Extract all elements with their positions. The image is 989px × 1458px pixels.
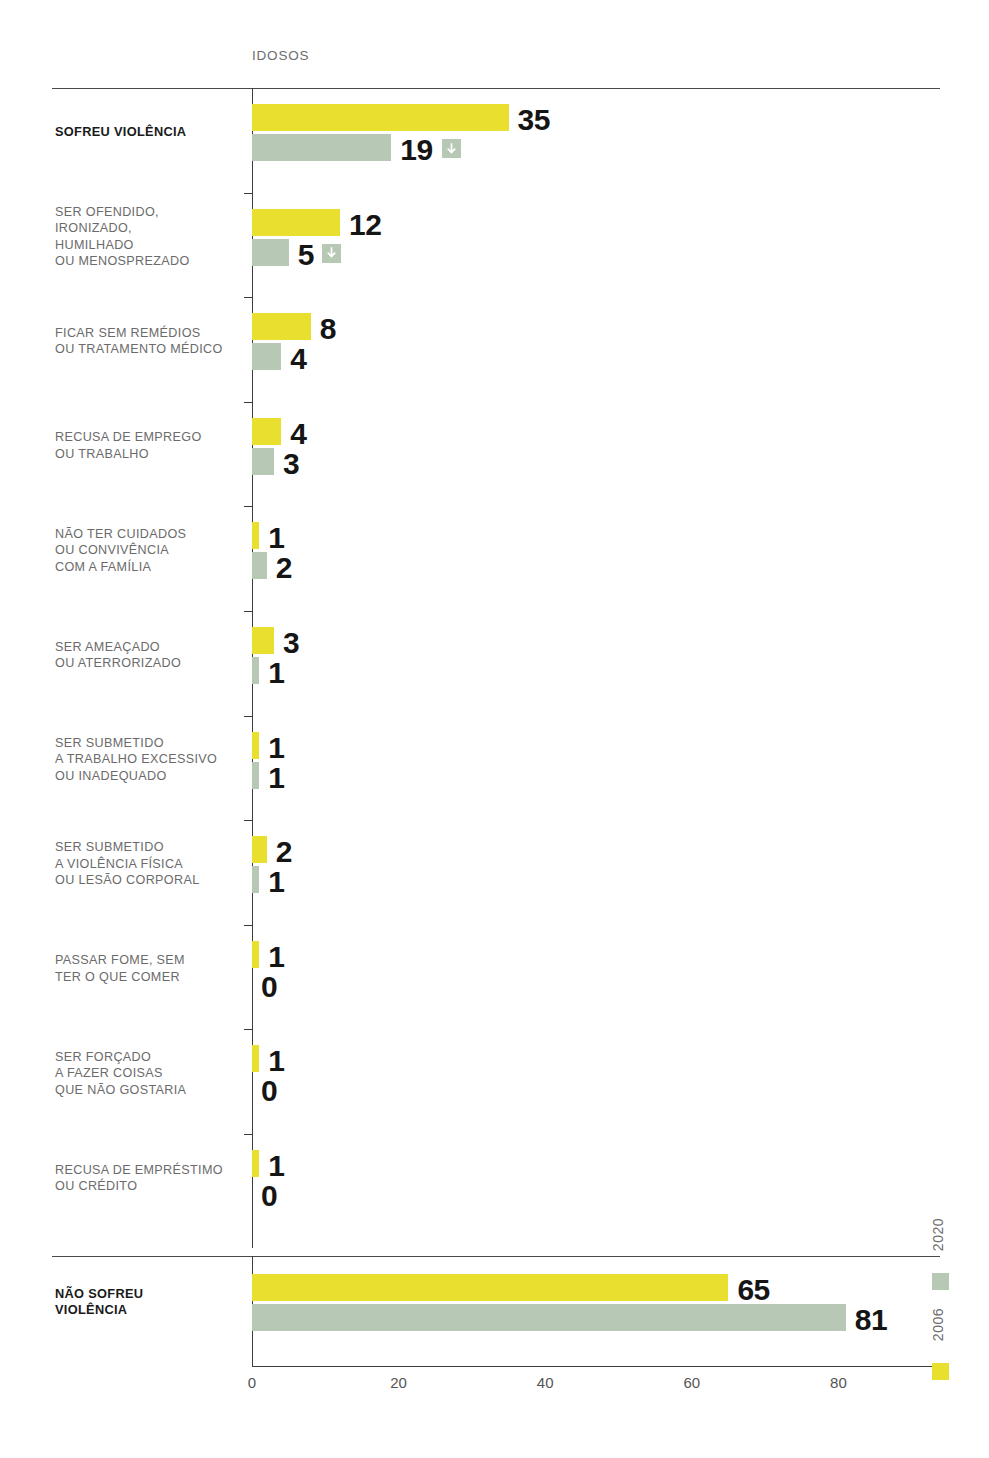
bar-2020[interactable] [252, 1304, 846, 1331]
category-label: FICAR SEM REMÉDIOSOU TRATAMENTO MÉDICO [55, 325, 240, 358]
category-label: SER OFENDIDO,IRONIZADO,HUMILHADOOU MENOS… [55, 204, 240, 270]
bar-2020[interactable] [252, 239, 289, 266]
bar-value-2020: 0 [261, 972, 277, 1002]
category-label-line: VIOLÊNCIA [55, 1302, 240, 1319]
bar-value-2020: 19 [400, 135, 432, 165]
bar-value-2020: 81 [855, 1305, 887, 1335]
bar-value-2006: 35 [518, 105, 550, 135]
bar-2020[interactable] [252, 448, 274, 475]
bar-2020[interactable] [252, 762, 259, 789]
top-divider-rule [52, 88, 940, 89]
bar-value-2006: 3 [283, 628, 299, 658]
bar-value-2020: 5 [298, 240, 314, 270]
y-axis-tick [244, 611, 253, 612]
category-label-line: OU CRÉDITO [55, 1178, 240, 1195]
category-label-line: OU TRATAMENTO MÉDICO [55, 341, 240, 358]
category-label-line: SOFREU VIOLÊNCIA [55, 124, 240, 141]
y-axis-tick [244, 297, 253, 298]
category-label-line: PASSAR FOME, SEM [55, 952, 240, 969]
category-label-line: FICAR SEM REMÉDIOS [55, 325, 240, 342]
section-divider-rule [52, 1256, 940, 1257]
category-label: SER AMEAÇADOOU ATERRORIZADO [55, 639, 240, 672]
category-label: RECUSA DE EMPRÉSTIMOOU CRÉDITO [55, 1162, 240, 1195]
bar-value-2006: 12 [349, 210, 381, 240]
chart-page: IDOSOS 020406080 SOFREU VIOLÊNCIA3519SER… [0, 0, 989, 1458]
bar-2006[interactable] [252, 1045, 259, 1072]
y-axis-tick [244, 925, 253, 926]
bar-2006[interactable] [252, 209, 340, 236]
category-label-line: SER OFENDIDO, [55, 204, 240, 221]
category-label-line: SER AMEAÇADO [55, 639, 240, 656]
category-label-line: A TRABALHO EXCESSIVO [55, 751, 240, 768]
y-axis-tick [244, 506, 253, 507]
bar-2006[interactable] [252, 1150, 259, 1177]
arrow-down-icon [442, 139, 461, 158]
category-label-line: RECUSA DE EMPREGO [55, 429, 240, 446]
bar-value-2020: 1 [268, 763, 284, 793]
category-label: SER FORÇADOA FAZER COISASQUE NÃO GOSTARI… [55, 1049, 240, 1099]
category-label-line: COM A FAMÍLIA [55, 559, 240, 576]
x-tick-label: 20 [390, 1374, 407, 1391]
category-label: SOFREU VIOLÊNCIA [55, 124, 240, 141]
category-label-line: IRONIZADO, [55, 220, 240, 237]
bar-value-2020: 1 [268, 658, 284, 688]
bar-2006[interactable] [252, 941, 259, 968]
y-axis-tick [244, 1134, 253, 1135]
category-label-line: OU ATERRORIZADO [55, 655, 240, 672]
bar-value-2006: 2 [276, 837, 292, 867]
y-axis-tick [244, 716, 253, 717]
bar-2006[interactable] [252, 627, 274, 654]
x-tick-label: 60 [683, 1374, 700, 1391]
bar-2020[interactable] [252, 343, 281, 370]
x-tick-label: 80 [830, 1374, 847, 1391]
category-label-line: OU LESÃO CORPORAL [55, 872, 240, 889]
bar-value-2020: 2 [276, 553, 292, 583]
bar-value-2020: 0 [261, 1181, 277, 1211]
category-label: SER SUBMETIDOA VIOLÊNCIA FÍSICAOU LESÃO … [55, 839, 240, 889]
x-axis-line [252, 1366, 940, 1367]
x-tick-label: 40 [537, 1374, 554, 1391]
category-label-line: TER O QUE COMER [55, 969, 240, 986]
category-label-line: NÃO SOFREU [55, 1286, 240, 1303]
category-label-line: NÃO TER CUIDADOS [55, 526, 240, 543]
category-label-line: QUE NÃO GOSTARIA [55, 1082, 240, 1099]
bar-value-2006: 8 [320, 314, 336, 344]
bar-value-2020: 1 [268, 867, 284, 897]
category-label-line: SER SUBMETIDO [55, 735, 240, 752]
bar-2006[interactable] [252, 836, 267, 863]
category-label: PASSAR FOME, SEMTER O QUE COMER [55, 952, 240, 985]
bar-2020[interactable] [252, 552, 267, 579]
bar-value-2006: 1 [268, 1151, 284, 1181]
category-label-line: OU MENOSPREZADO [55, 253, 240, 270]
x-tick-label: 0 [248, 1374, 256, 1391]
category-label-line: OU CONVIVÊNCIA [55, 542, 240, 559]
category-label: RECUSA DE EMPREGOOU TRABALHO [55, 429, 240, 462]
bar-value-2020: 0 [261, 1076, 277, 1106]
legend-swatch-2020 [932, 1273, 949, 1290]
bar-value-2006: 1 [268, 733, 284, 763]
legend-label-2006: 2006 [930, 1308, 946, 1341]
bar-2006[interactable] [252, 104, 509, 131]
bar-2006[interactable] [252, 418, 281, 445]
bar-2020[interactable] [252, 657, 259, 684]
legend-swatch-2006 [932, 1363, 949, 1380]
category-label: NÃO SOFREUVIOLÊNCIA [55, 1286, 240, 1319]
bar-value-2006: 1 [268, 1046, 284, 1076]
bar-value-2006: 1 [268, 523, 284, 553]
bar-2006[interactable] [252, 732, 259, 759]
bar-2006[interactable] [252, 313, 311, 340]
category-label: NÃO TER CUIDADOSOU CONVIVÊNCIACOM A FAMÍ… [55, 526, 240, 576]
y-axis-tick [244, 193, 253, 194]
category-label-line: OU INADEQUADO [55, 768, 240, 785]
bar-2020[interactable] [252, 134, 391, 161]
category-label-line: A FAZER COISAS [55, 1065, 240, 1082]
bar-value-2020: 4 [290, 344, 306, 374]
bar-2020[interactable] [252, 866, 259, 893]
bar-2006[interactable] [252, 1274, 728, 1301]
category-label-line: SER SUBMETIDO [55, 839, 240, 856]
page-title: IDOSOS [252, 48, 309, 63]
bar-value-2006: 65 [737, 1275, 769, 1305]
category-label-line: OU TRABALHO [55, 446, 240, 463]
bar-2006[interactable] [252, 522, 259, 549]
arrow-down-icon [322, 244, 341, 263]
